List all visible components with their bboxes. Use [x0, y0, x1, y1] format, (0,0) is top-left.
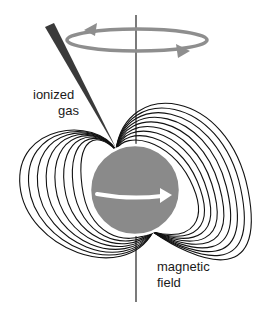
ionized-gas-label-line1: ionized	[33, 87, 74, 102]
magnetic-field-label-line2: field	[157, 275, 181, 290]
rotation-arrow-icon	[67, 23, 207, 58]
magnetic-field-label-line1: magnetic	[157, 259, 210, 274]
pulsar-diagram: ionized gas magnetic field	[0, 0, 266, 323]
ionized-gas-label-line2: gas	[58, 103, 79, 118]
